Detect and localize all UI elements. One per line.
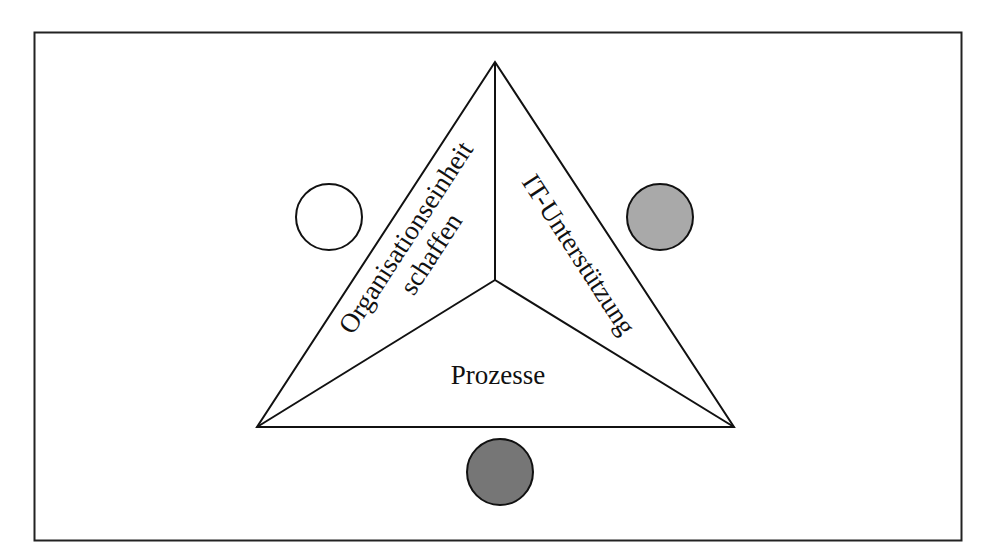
white-circle-icon [296,184,362,250]
light-gray-circle-icon [627,184,693,250]
dark-gray-circle-icon [467,439,533,505]
label-processes: Prozesse [451,360,545,390]
diagram-canvas: Organisationseinheit schaffen IT-Unterst… [0,0,997,554]
